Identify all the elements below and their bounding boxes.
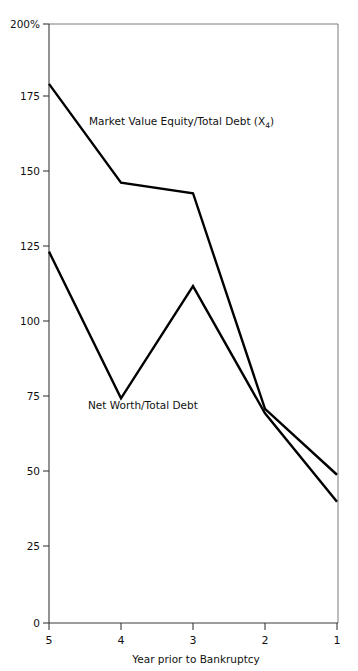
- y-tick-label-150: 150: [20, 165, 40, 177]
- y-tick-label-125: 125: [20, 240, 40, 252]
- x-tick-label-5: 5: [46, 634, 53, 647]
- chart-figure: 200% 175 150 125 100 75 50 25 0 5 4 3 2 …: [0, 0, 358, 671]
- series-annotation-net-worth: Net Worth/Total Debt: [88, 399, 198, 411]
- x-axis-title: Year prior to Bankruptcy: [131, 653, 260, 665]
- x-tick-label-4: 4: [118, 634, 125, 647]
- y-tick-label-175: 175: [20, 90, 40, 102]
- y-tick-label-100: 100: [20, 315, 40, 327]
- x-tick-label-1: 1: [334, 634, 341, 647]
- line-chart-svg: 200% 175 150 125 100 75 50 25 0 5 4 3 2 …: [0, 0, 358, 671]
- y-tick-label-50: 50: [27, 465, 40, 477]
- x-tick-label-3: 3: [190, 634, 197, 647]
- y-tick-label-200: 200%: [10, 18, 40, 30]
- y-tick-label-0: 0: [33, 617, 40, 629]
- y-tick-label-75: 75: [27, 390, 40, 402]
- y-tick-label-25: 25: [27, 540, 40, 552]
- x-tick-label-2: 2: [262, 634, 269, 647]
- chart-background: [0, 0, 358, 671]
